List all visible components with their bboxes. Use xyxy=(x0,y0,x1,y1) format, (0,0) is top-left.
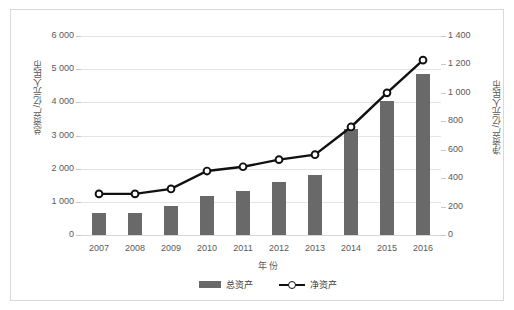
x-axis-tick-label: 2007 xyxy=(79,243,119,253)
line-marker-2009 xyxy=(168,186,175,193)
right-tick-mark xyxy=(441,207,446,208)
legend-item-total-assets: 总资产 xyxy=(199,278,253,291)
right-tick-mark xyxy=(441,36,446,37)
plot-area: 01 0002 0003 0004 0005 0006 000020040060… xyxy=(81,36,441,235)
legend-label-total-assets: 总资产 xyxy=(226,278,253,291)
net-assets-line-series xyxy=(81,32,441,239)
right-axis-tick-label: 200 xyxy=(448,202,463,211)
left-axis-tick-label: 6 000 xyxy=(51,31,74,40)
line-marker-2016 xyxy=(420,57,427,64)
x-axis-title: 年 份 xyxy=(11,259,514,272)
left-axis-tick-label: 2 000 xyxy=(51,164,74,173)
right-axis-tick-label: 600 xyxy=(448,145,463,154)
legend-line-marker-icon xyxy=(279,280,305,289)
left-axis-tick-label: 1 000 xyxy=(51,197,74,206)
line-marker-2010 xyxy=(204,168,211,175)
x-axis-tick-label: 2008 xyxy=(115,243,155,253)
right-tick-mark xyxy=(441,150,446,151)
left-axis-title: 总资产/亿元人民币 xyxy=(30,60,43,135)
right-axis-title: 净资产/亿元人民币 xyxy=(489,80,502,155)
x-axis-tick-label: 2014 xyxy=(331,243,371,253)
x-axis-tick-label: 2015 xyxy=(367,243,407,253)
left-axis-tick-label: 5 000 xyxy=(51,64,74,73)
right-axis-tick-label: 0 xyxy=(448,230,453,239)
left-axis-tick-label: 3 000 xyxy=(51,131,74,140)
line-marker-2011 xyxy=(240,163,247,170)
right-axis-tick-label: 1 400 xyxy=(448,31,471,40)
chart-frame: 总资产/亿元人民币 净资产/亿元人民币 01 0002 0003 0004 00… xyxy=(10,9,504,301)
x-axis-tick-label: 2010 xyxy=(187,243,227,253)
line-marker-2007 xyxy=(96,191,103,198)
right-axis-tick-label: 1 200 xyxy=(448,59,471,68)
x-axis-tick-label: 2011 xyxy=(223,243,263,253)
right-axis-tick-label: 400 xyxy=(448,173,463,182)
line-marker-2012 xyxy=(276,156,283,163)
x-axis-tick-label: 2009 xyxy=(151,243,191,253)
line-marker-2015 xyxy=(384,89,391,96)
right-tick-mark xyxy=(441,121,446,122)
right-tick-mark xyxy=(441,235,446,236)
right-axis-tick-label: 1 000 xyxy=(448,88,471,97)
line-path xyxy=(99,60,423,194)
left-axis-tick-label: 0 xyxy=(69,230,74,239)
right-tick-mark xyxy=(441,178,446,179)
right-tick-mark xyxy=(441,64,446,65)
right-tick-mark xyxy=(441,93,446,94)
x-axis-tick-label: 2013 xyxy=(295,243,335,253)
chart-legend: 总资产 净资产 xyxy=(11,278,514,291)
line-marker-2014 xyxy=(348,124,355,131)
left-axis-tick-label: 4 000 xyxy=(51,97,74,106)
line-marker-2013 xyxy=(312,151,319,158)
legend-label-net-assets: 净资产 xyxy=(310,278,337,291)
legend-item-net-assets: 净资产 xyxy=(279,278,337,291)
right-axis-tick-label: 800 xyxy=(448,116,463,125)
x-axis-tick-label: 2012 xyxy=(259,243,299,253)
legend-bar-swatch-icon xyxy=(199,281,221,288)
line-marker-2008 xyxy=(132,191,139,198)
x-axis-tick-label: 2016 xyxy=(403,243,443,253)
